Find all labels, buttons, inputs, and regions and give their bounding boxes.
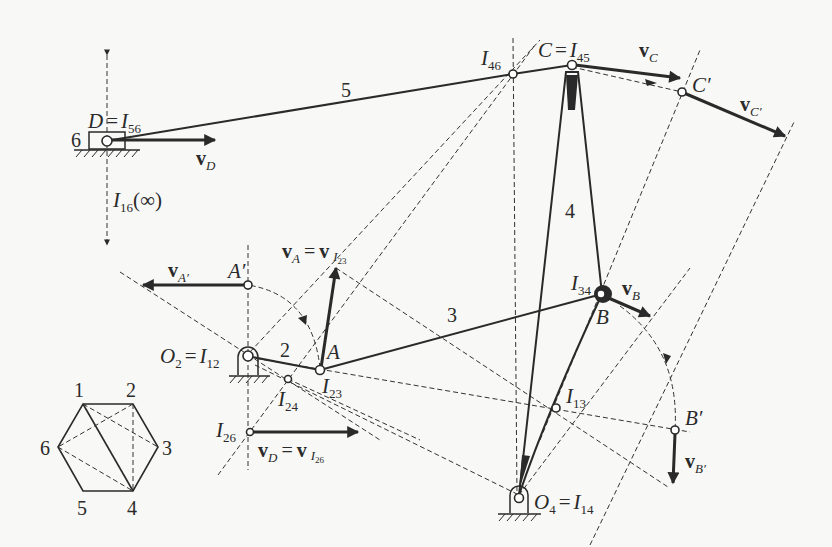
label-vb: vB (622, 277, 640, 303)
link-label-5: 5 (341, 79, 351, 101)
i26-i46-line (218, 45, 535, 475)
vc-prime-tip-line (590, 120, 795, 545)
label-c-prime: C′ (692, 73, 711, 97)
label-vc: vC (639, 39, 658, 65)
diagram-svg: 1 2 3 4 5 6 5 6 2 3 4 D=I56 vD I16(∞) I4… (0, 0, 832, 547)
pin-o2 (243, 351, 253, 361)
label-d-i56: D=I56 (87, 109, 142, 136)
label-o4-i14: O4=I14 (534, 490, 594, 517)
arc-arrow-b (663, 353, 671, 364)
arc-arrow-a (298, 315, 307, 325)
label-i13: I13 (565, 384, 586, 411)
label-vc-prime: vC′ (740, 93, 762, 119)
pin-b (597, 290, 605, 298)
hex-label-1: 1 (74, 379, 84, 401)
label-a-prime: A′ (226, 259, 246, 283)
label-va-eq-vi23: vA=vI23 (282, 240, 347, 266)
vb-prime-arrow (673, 434, 675, 483)
label-i46: I46 (480, 46, 502, 73)
hex-label-6: 6 (40, 437, 50, 459)
pin-b-prime (671, 426, 679, 434)
label-c-i45: C=I45 (538, 38, 590, 65)
edge-2-6 (58, 404, 133, 447)
i46-vertical-line (513, 38, 517, 495)
label-i24: I24 (277, 387, 299, 414)
pin-i13 (552, 404, 560, 412)
link-label-2: 2 (280, 339, 290, 361)
labels: 1 2 3 4 5 6 5 6 2 3 4 D=I56 vD I16(∞) I4… (40, 38, 762, 519)
i24-o4-line (255, 365, 519, 495)
pin-i26 (247, 429, 254, 436)
link-4-wedge-top (566, 75, 578, 110)
link-label-3: 3 (447, 304, 457, 326)
hex-label-5: 5 (77, 497, 87, 519)
link-5 (112, 74, 513, 140)
link-3 (320, 294, 602, 370)
link-4-wedge-bottom (519, 455, 530, 490)
hex-label-3: 3 (162, 437, 172, 459)
label-b-prime: B′ (685, 406, 703, 430)
vc-prime-arrow (684, 93, 785, 136)
pin-i24 (285, 376, 292, 383)
label-i34: I34 (570, 271, 592, 298)
vb-arrow (604, 296, 650, 316)
pin-i46 (509, 70, 517, 78)
link-label-4: 4 (565, 200, 575, 222)
hex-label-2: 2 (126, 379, 136, 401)
label-vb-prime: vB′ (685, 450, 706, 476)
label-i26: I26 (215, 418, 237, 445)
label-i23: I23 (321, 374, 342, 401)
link-label-6: 6 (71, 129, 81, 151)
edge-1-3 (83, 404, 158, 447)
o2-c-ray (250, 40, 540, 352)
label-i16-infinity: I16(∞) (112, 188, 162, 215)
edge-1-4 (83, 404, 133, 491)
instant-center-polygon (58, 404, 158, 491)
label-a: A (325, 340, 340, 364)
label-va-prime: vA′ (168, 259, 189, 285)
linkage-diagram: 1 2 3 4 5 6 5 6 2 3 4 D=I56 vD I16(∞) I4… (0, 0, 832, 547)
label-o2-i12: O2=I12 (160, 344, 220, 371)
edge-6-4 (58, 447, 133, 491)
hex-label-4: 4 (127, 497, 137, 519)
pin-o4 (515, 494, 524, 503)
link-4-lower (519, 294, 602, 495)
pin-c-prime (678, 88, 686, 96)
label-vd: vD (196, 147, 216, 173)
pin-d (102, 136, 112, 146)
label-vd-eq-vi26: vD=vI26 (258, 439, 325, 465)
label-b: B (596, 305, 609, 329)
arc-b-to-b-prime (620, 306, 675, 430)
link-5-end (513, 65, 572, 74)
